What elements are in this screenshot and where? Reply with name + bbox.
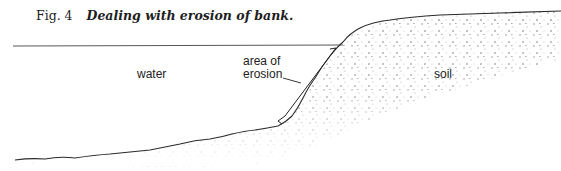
soil-region [15, 10, 561, 167]
water-label: water [137, 68, 166, 81]
bank-cross-section [0, 0, 561, 171]
water-surface-line [13, 45, 343, 46]
erosion-diagram: Fig. 4 Dealing with erosion of bank. [0, 0, 561, 171]
soil-label: soil [434, 68, 452, 81]
erosion-label-line2: erosion [243, 68, 282, 81]
erosion-leader-line [283, 78, 301, 83]
